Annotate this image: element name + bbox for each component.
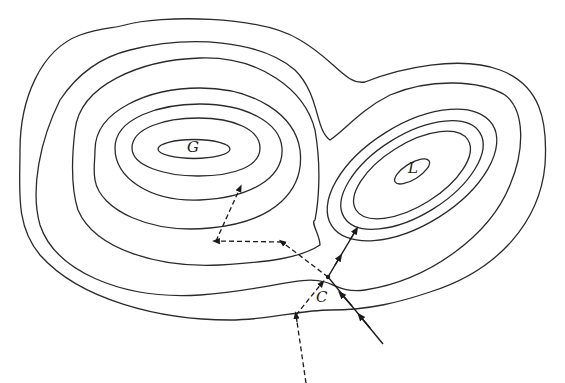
contour-g-3 (72, 58, 320, 265)
contour-diagram (0, 0, 565, 383)
label-start-point: C (316, 290, 327, 305)
dashed-segment-5 (216, 188, 240, 241)
point-c-marker (326, 275, 330, 279)
contour-outer-1 (20, 19, 546, 320)
solid-arrow-2 (341, 294, 352, 306)
label-local-max: L (408, 161, 418, 176)
dashed-segment-3 (282, 242, 328, 277)
dashed-ascent-path (296, 315, 306, 383)
label-global-max: G (187, 140, 199, 155)
dashed-segment-4 (216, 241, 282, 242)
solid-arrow-3 (335, 257, 340, 265)
solid-arrow-1 (360, 316, 370, 328)
solid-ascent-path (328, 230, 383, 344)
solid-arrow-4 (350, 230, 356, 240)
